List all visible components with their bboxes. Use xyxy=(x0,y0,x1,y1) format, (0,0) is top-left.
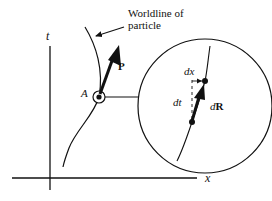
inset-end-point xyxy=(202,78,208,84)
dr-label-r: R xyxy=(216,100,225,112)
t-axis-label: t xyxy=(46,29,50,43)
point-a-label: A xyxy=(80,87,88,99)
inset-start-point xyxy=(189,119,195,125)
displacement-arrow-dr xyxy=(192,84,205,121)
dt-label: dt xyxy=(173,96,183,108)
worldline-caption-line1: Worldline of xyxy=(128,7,184,19)
inset-worldline xyxy=(177,46,210,161)
caption-pointer-arrow xyxy=(96,27,124,36)
magnified-inset-circle xyxy=(138,39,272,173)
dx-label: dx xyxy=(184,65,195,77)
spacetime-diagram: t x Worldline of particle A P dx dt dR xyxy=(0,0,272,201)
dr-label: dR xyxy=(210,100,225,112)
worldline-caption-line2: particle xyxy=(128,19,161,31)
momentum-label: P xyxy=(118,60,125,72)
